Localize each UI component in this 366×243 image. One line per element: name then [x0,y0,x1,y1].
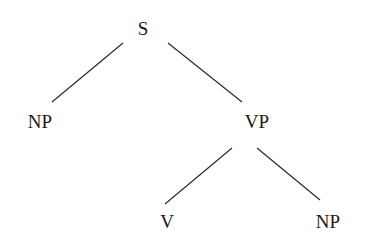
tree-edges [0,0,366,243]
node-np-object: NP [316,212,340,231]
node-v: V [160,212,174,231]
node-s: S [138,19,149,38]
node-np-subject: NP [28,112,52,131]
node-vp: VP [245,112,269,131]
edge-s-np [52,43,123,102]
edge-vp-np [257,148,320,200]
edge-vp-v [165,148,232,204]
edge-s-vp [168,43,242,102]
syntax-tree-diagram: S NP VP V NP [0,0,366,243]
